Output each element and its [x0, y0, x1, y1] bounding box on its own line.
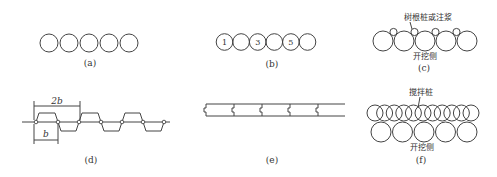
pile-circle	[40, 34, 58, 52]
sheet-joint	[288, 104, 290, 116]
panel-d-dim-b: b	[43, 129, 49, 139]
panel-c-leader-line	[410, 22, 412, 29]
grout-circle	[390, 28, 397, 35]
grout-circle	[453, 28, 460, 35]
pile-arrangement-diagram: (a) 135 (b) 树根桩或注浆 开挖侧 (c) 2b b (d) (e) …	[0, 0, 497, 177]
sheet-joint	[204, 104, 206, 116]
pile-circle	[371, 122, 391, 142]
panel-b: 135	[216, 34, 316, 51]
panel-c	[373, 28, 477, 51]
interlock-circle	[120, 120, 124, 124]
panel-f	[367, 105, 479, 142]
mixing-pile-circle	[434, 105, 450, 121]
pile-number: 3	[255, 38, 260, 47]
pile-number: 1	[222, 38, 227, 47]
interlock-circle	[162, 120, 166, 124]
pile-circle	[80, 34, 98, 52]
interlock-circle	[56, 120, 60, 124]
grout-circle	[432, 28, 439, 35]
pile-circle	[266, 34, 283, 51]
pile-circle	[414, 122, 434, 142]
mixing-pile-circle	[377, 105, 393, 121]
mixing-pile-circle	[367, 105, 383, 121]
mixing-pile-circle	[453, 105, 469, 121]
panel-d-dim-2b: 2b	[50, 96, 63, 106]
grout-circle	[411, 28, 418, 35]
mixing-pile-circle	[396, 105, 412, 121]
panel-f-annotation: 搅拌桩	[409, 87, 433, 97]
panel-c-label: (c)	[418, 63, 430, 73]
sheet-joint	[316, 104, 318, 116]
pile-number: 5	[288, 38, 293, 47]
panel-f-side-label: 开挖侧	[410, 142, 434, 152]
pile-circle	[299, 34, 316, 51]
panel-e-label: (e)	[266, 155, 278, 165]
interlock-circle	[141, 120, 145, 124]
panel-a-label: (a)	[84, 58, 96, 68]
pile-circle	[120, 34, 138, 52]
interlock-circle	[34, 120, 38, 124]
sheet-joint	[232, 104, 234, 116]
pile-circle	[100, 34, 118, 52]
panel-d-label: (d)	[85, 155, 98, 165]
mixing-pile-circle	[463, 105, 479, 121]
panel-e	[204, 104, 345, 116]
mixing-pile-circle	[415, 105, 431, 121]
pile-circle	[233, 34, 250, 51]
pile-circle	[436, 122, 456, 142]
mixing-pile-circle	[386, 105, 402, 121]
mixing-pile-circle	[425, 105, 441, 121]
panel-a	[40, 34, 138, 52]
interlock-circle	[77, 120, 81, 124]
mixing-pile-circle	[405, 105, 421, 121]
panel-f-label: (f)	[416, 155, 426, 165]
pile-circle	[457, 122, 477, 142]
panel-c-side-label: 开挖侧	[413, 51, 437, 61]
pile-circle	[393, 122, 413, 142]
interlock-circle	[99, 120, 103, 124]
panel-b-label: (b)	[266, 59, 279, 69]
pile-circle	[60, 34, 78, 52]
panel-c-annotation: 树根桩或注浆	[404, 12, 452, 22]
sheet-joint	[260, 104, 262, 116]
mixing-pile-circle	[444, 105, 460, 121]
